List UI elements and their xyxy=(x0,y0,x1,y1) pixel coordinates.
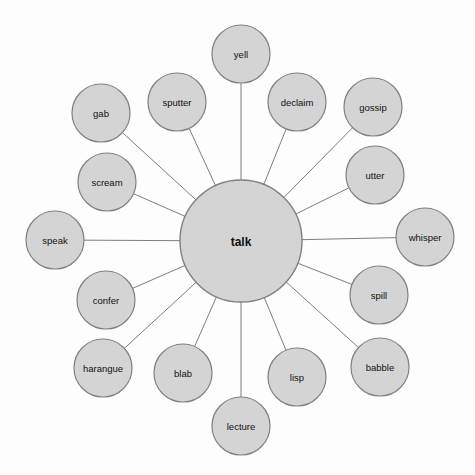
node-label-gossip: gossip xyxy=(359,102,386,113)
node-confer[interactable]: confer xyxy=(77,271,135,329)
edge-talk-to-sputter xyxy=(189,128,215,185)
node-label-lisp: lisp xyxy=(290,372,304,383)
word-web-canvas: yelldeclaimgossiputterwhisperspillbabble… xyxy=(0,0,475,475)
node-declaim[interactable]: declaim xyxy=(268,73,326,131)
node-utter[interactable]: utter xyxy=(346,146,404,204)
edge-talk-to-confer xyxy=(133,265,186,288)
edge-talk-to-utter xyxy=(296,188,349,214)
node-speak[interactable]: speak xyxy=(26,211,84,269)
edge-talk-to-gossip xyxy=(284,128,353,198)
node-label-gab: gab xyxy=(93,108,109,119)
node-yell[interactable]: yell xyxy=(212,25,270,83)
node-blab[interactable]: blab xyxy=(154,344,212,402)
edge-talk-to-babble xyxy=(286,282,358,348)
node-label-lecture: lecture xyxy=(227,421,256,432)
node-label-harangue: harangue xyxy=(83,363,123,374)
node-sputter[interactable]: sputter xyxy=(148,73,206,131)
node-label-utter: utter xyxy=(365,170,384,181)
node-label-speak: speak xyxy=(42,235,68,246)
node-label-spill: spill xyxy=(371,290,387,301)
node-whisper[interactable]: whisper xyxy=(396,208,454,266)
node-label-whisper: whisper xyxy=(408,232,442,243)
node-scream[interactable]: scream xyxy=(78,153,136,211)
node-label-scream: scream xyxy=(91,177,122,188)
edge-talk-to-spill xyxy=(298,263,352,284)
edge-talk-to-harangue xyxy=(124,282,196,348)
node-gab[interactable]: gab xyxy=(72,84,130,142)
center-node-talk[interactable]: talk xyxy=(180,180,302,302)
edge-talk-to-blab xyxy=(195,297,217,347)
edge-talk-to-speak xyxy=(84,240,180,241)
node-lisp[interactable]: lisp xyxy=(268,348,326,406)
node-label-blab: blab xyxy=(174,368,192,379)
node-label-talk: talk xyxy=(231,235,252,249)
edge-talk-to-lisp xyxy=(264,297,286,350)
node-label-yell: yell xyxy=(234,49,248,60)
node-babble[interactable]: babble xyxy=(351,338,409,396)
edge-talk-to-whisper xyxy=(302,238,396,240)
node-lecture[interactable]: lecture xyxy=(212,397,270,455)
node-label-declaim: declaim xyxy=(281,97,314,108)
word-web-diagram: yelldeclaimgossiputterwhisperspillbabble… xyxy=(0,0,475,475)
node-label-sputter: sputter xyxy=(162,97,191,108)
node-harangue[interactable]: harangue xyxy=(74,339,132,397)
node-label-confer: confer xyxy=(93,295,119,306)
node-gossip[interactable]: gossip xyxy=(344,78,402,136)
edge-talk-to-scream xyxy=(134,194,186,217)
node-spill[interactable]: spill xyxy=(350,266,408,324)
edge-talk-to-declaim xyxy=(264,129,286,185)
node-label-babble: babble xyxy=(366,362,395,373)
